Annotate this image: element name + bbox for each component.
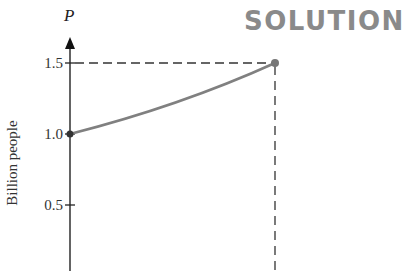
end-point-marker: [271, 59, 279, 67]
growth-curve: [70, 63, 275, 134]
start-point-marker: [67, 131, 74, 138]
y-axis-arrow-icon: [65, 37, 75, 49]
